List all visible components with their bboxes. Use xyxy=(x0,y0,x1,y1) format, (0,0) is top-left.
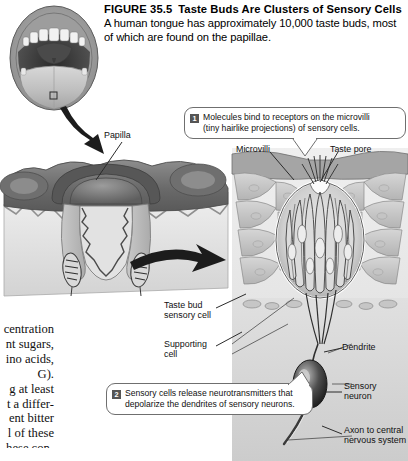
margin-line-clipped: hese con- xyxy=(0,441,54,448)
margin-line: l of these xyxy=(0,426,54,441)
margin-line: ent bitter xyxy=(0,411,54,426)
label-line-2: nervous system xyxy=(344,435,406,445)
callout-1-tail xyxy=(292,139,320,157)
label-dendrite: Dendrite xyxy=(342,342,376,352)
leader-dendrite xyxy=(322,344,344,356)
figure-number: FIGURE 35.5 xyxy=(104,3,172,15)
leader-papilla xyxy=(86,140,136,190)
label-line-1: Supporting xyxy=(164,339,207,349)
arrow-papilla-to-detail xyxy=(128,240,232,284)
label-microvilli: Microvilli xyxy=(236,144,270,154)
callout-1-line-2: (tiny hairlike projections) of sensory c… xyxy=(203,123,400,134)
margin-line: G). xyxy=(0,367,54,382)
papilla-ridge-right-inner xyxy=(181,171,215,189)
margin-body-text: centration nt sugars, ino acids, G). g a… xyxy=(0,322,54,448)
leader-axon xyxy=(320,424,344,438)
papilla-ridge-left-inner xyxy=(10,178,38,194)
leader-supporting-cell xyxy=(214,330,246,350)
callout-2-badge: 2 xyxy=(112,390,121,399)
margin-line: nt sugars, xyxy=(0,337,54,352)
label-line-2: cell xyxy=(164,349,177,359)
leader-taste-pore xyxy=(316,150,348,186)
label-line-1: Axon to central xyxy=(344,425,403,435)
figure-caption: FIGURE 35.5Taste Buds Are Clusters of Se… xyxy=(104,2,406,44)
leader-taste-bud-sensory-cell xyxy=(214,292,250,314)
margin-line: ino acids, xyxy=(0,352,54,367)
figure-caption-text: A human tongue has approximately 10,000 … xyxy=(104,17,406,44)
callout-1-line-1: Molecules bind to receptors on the micro… xyxy=(203,112,370,122)
figure-title-line: FIGURE 35.5Taste Buds Are Clusters of Se… xyxy=(104,2,406,16)
label-axon: Axon to central nervous system xyxy=(344,425,406,446)
label-line-2: neuron xyxy=(344,391,372,401)
callout-2-line-2: depolarize the dendrites of sensory neur… xyxy=(125,399,307,410)
label-supporting-cell: Supporting cell xyxy=(164,339,207,360)
leader-sensory-neuron xyxy=(324,386,344,398)
label-line-1: Sensory xyxy=(344,381,377,391)
label-taste-pore: Taste pore xyxy=(330,144,371,154)
figure-title: Taste Buds Are Clusters of Sensory Cells xyxy=(178,3,401,15)
label-taste-bud-sensory-cell: Taste bud sensory cell xyxy=(164,300,211,321)
callout-step-1: 1Molecules bind to receptors on the micr… xyxy=(184,107,406,139)
margin-line: t a differ- xyxy=(0,397,54,412)
margin-line: g at least xyxy=(0,382,54,397)
callout-1-badge: 1 xyxy=(190,114,199,123)
label-sensory-neuron: Sensory neuron xyxy=(344,381,377,402)
callout-2-line-1: Sensory cells release neurotransmitters … xyxy=(125,388,293,398)
label-line-2: sensory cell xyxy=(164,310,211,320)
label-line-1: Taste bud xyxy=(164,300,202,310)
callout-step-2: 2Sensory cells release neurotransmitters… xyxy=(106,383,313,415)
label-papilla: Papilla xyxy=(104,130,131,140)
margin-line: centration xyxy=(0,322,54,337)
callout-2-tail xyxy=(286,372,312,386)
open-mouth-illustration xyxy=(6,2,102,110)
